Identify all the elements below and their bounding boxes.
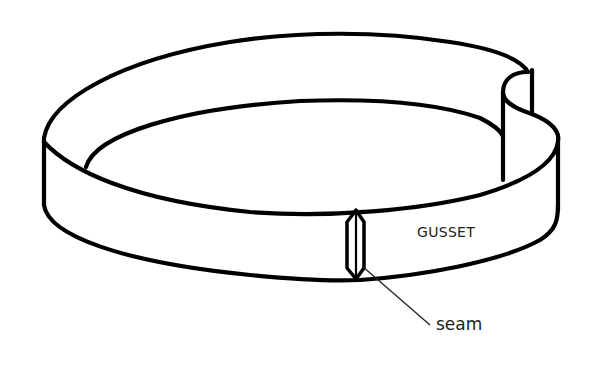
- seam-label: seam: [436, 314, 482, 334]
- outer-bottom-edge: [44, 205, 558, 280]
- right-side-curve: [532, 114, 558, 142]
- overlap-curl: [503, 72, 532, 114]
- diagram-canvas: GUSSET seam: [0, 0, 593, 368]
- outer-top-edge: [44, 34, 528, 138]
- inner-back-edge: [86, 100, 503, 167]
- gusset-label: GUSSET: [417, 224, 475, 240]
- inner-front-edge: [44, 142, 558, 214]
- band-drawing: [0, 0, 593, 368]
